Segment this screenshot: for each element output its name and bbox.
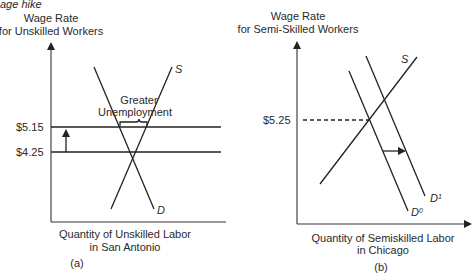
panel-a-y-label-2: for Unskilled Workers — [0, 25, 104, 37]
panel-a-x-label-1: Quantity of Unskilled Labor — [59, 228, 191, 240]
annotation-line-2: Unemployment — [98, 106, 172, 118]
demand-curve-d0 — [349, 71, 408, 211]
panel-a: Wage Rate for Unskilled Workers $5.15 $4… — [0, 12, 226, 269]
demand-curve-d — [94, 67, 154, 209]
annotation-line-1: Greater — [120, 94, 158, 106]
wage-high-label: $5.15 — [16, 121, 44, 133]
supply-label: S — [401, 53, 409, 65]
wage-label: $5.25 — [263, 114, 291, 126]
economics-diagram: age hike Wage Rate for Unskilled Workers… — [0, 0, 476, 279]
demand-curve-d1 — [366, 56, 425, 196]
panel-b: Wage Rate for Semi-Skilled Workers $5.25… — [238, 10, 470, 273]
supply-curve-s — [111, 67, 172, 209]
panel-a-y-label-1: Wage Rate — [24, 12, 79, 24]
unemployment-brace — [120, 119, 147, 126]
wage-low-label: $4.25 — [16, 146, 44, 158]
demand0-label: D0 — [411, 206, 423, 218]
supply-label: S — [175, 63, 183, 75]
demand-label: D — [157, 204, 165, 216]
panel-b-y-label-2: for Semi-Skilled Workers — [238, 23, 359, 35]
panel-b-y-label-1: Wage Rate — [271, 10, 326, 22]
panel-a-x-label-2: in San Antonio — [90, 241, 161, 253]
panel-b-x-label-1: Quantity of Semiskilled Labor — [311, 232, 454, 244]
header-fragment: age hike — [0, 0, 42, 10]
panel-b-caption: (b) — [374, 261, 387, 273]
panel-b-x-label-2: in Chicago — [357, 244, 409, 256]
demand1-label: D1 — [430, 192, 442, 204]
panel-a-caption: (a) — [70, 257, 83, 269]
